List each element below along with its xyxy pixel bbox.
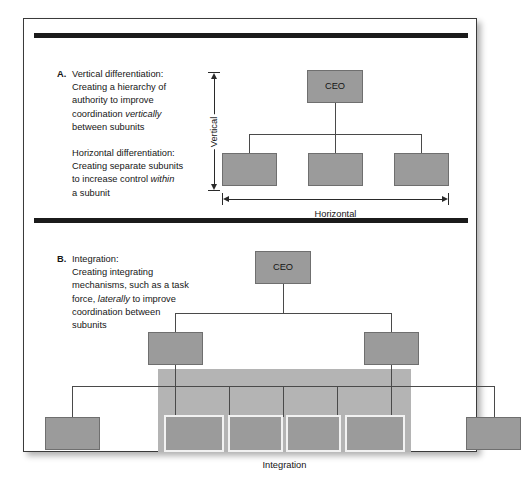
section-b-division-drop-right xyxy=(391,365,392,417)
vertical-dimension-arrow: Vertical xyxy=(205,72,223,191)
section-a-subunit-box[interactable] xyxy=(308,153,363,186)
section-b-integrated-subunit-box[interactable] xyxy=(286,415,341,452)
vertical-arrow-top-head xyxy=(211,73,217,79)
section-b-integrated-subunit-box[interactable] xyxy=(345,415,405,452)
section-a-ceo-box[interactable]: CEO xyxy=(307,70,363,103)
section-b-division-drop-left xyxy=(175,365,176,417)
section-b-bottom-branch xyxy=(283,386,284,417)
section-b-p1-italic: laterally xyxy=(98,294,130,304)
section-a-branch-right xyxy=(421,134,422,153)
integration-label: Integration xyxy=(158,460,411,470)
section-b-subunit-box[interactable] xyxy=(466,417,521,450)
section-a-branch-mid xyxy=(335,134,336,153)
section-b-integrated-subunit-box[interactable] xyxy=(228,415,283,452)
horizontal-arrow-left-head xyxy=(223,196,229,202)
section-a-ceo-drop xyxy=(335,103,336,134)
section-b-subunit-box[interactable] xyxy=(45,417,100,450)
vertical-axis-label: Vertical xyxy=(209,114,219,149)
section-a-p1-italic: vertically xyxy=(125,109,161,119)
figure-frame: A. Vertical differentiation: Creating a … xyxy=(23,18,477,452)
section-a-panel: A. Vertical differentiation: Creating a … xyxy=(24,41,478,216)
vertical-arrow-bottom-head xyxy=(211,184,217,190)
section-b-top-branch-right xyxy=(391,313,392,332)
section-a-subunit-box[interactable] xyxy=(394,153,449,186)
section-a-top-rule xyxy=(34,33,468,38)
section-a-subunit-box[interactable] xyxy=(222,153,277,186)
section-b-bottom-branch xyxy=(72,386,73,417)
section-b-ceo-drop xyxy=(283,284,284,313)
section-b-top-rule xyxy=(34,218,468,223)
section-b-paragraph-1: Creating integrating mechanisms, such as… xyxy=(72,266,242,332)
section-b-integrated-subunit-box[interactable] xyxy=(164,415,224,452)
section-b-division-box[interactable] xyxy=(364,332,419,365)
horizontal-dimension-arrow xyxy=(222,191,449,207)
section-a-p1-post: between subunits xyxy=(72,122,144,132)
section-b-title: Integration: xyxy=(72,253,242,266)
section-b-division-box[interactable] xyxy=(148,332,203,365)
section-b-bottom-branch xyxy=(229,386,230,417)
section-a-p2-post: a subunit xyxy=(72,188,110,198)
horizontal-arrow-right-head xyxy=(442,196,448,202)
section-b-panel: B. Integration: Creating integrating mec… xyxy=(24,226,478,452)
section-b-top-bus xyxy=(175,313,391,314)
section-b-marker: B. xyxy=(57,253,66,266)
section-b-text: B. Integration: Creating integrating mec… xyxy=(57,253,242,332)
horizontal-arrow-shaft xyxy=(226,199,445,200)
section-a-marker: A. xyxy=(57,68,66,81)
section-a-p2-italic: within xyxy=(151,174,175,184)
section-b-bottom-branch xyxy=(494,386,495,417)
horizontal-arrow-right-cap xyxy=(448,193,449,205)
vertical-arrow-bottom-cap xyxy=(208,190,220,191)
section-b-top-branch-left xyxy=(175,313,176,332)
section-b-ceo-box[interactable]: CEO xyxy=(255,251,311,284)
section-b-ceo-label: CEO xyxy=(256,263,310,272)
section-a-ceo-label: CEO xyxy=(308,82,362,91)
section-a-branch-left xyxy=(249,134,250,153)
section-b-bottom-branch xyxy=(337,386,338,417)
